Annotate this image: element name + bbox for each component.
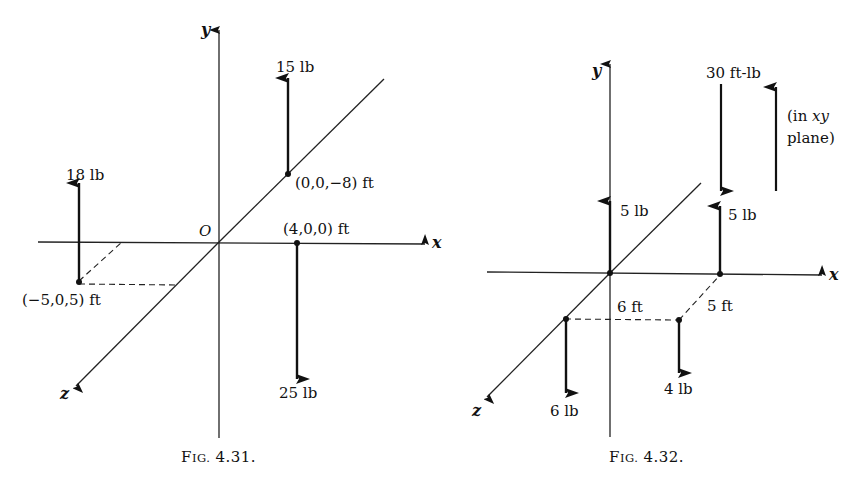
dashed-guide: [79, 242, 122, 281]
couple-note: (in xy: [787, 107, 830, 125]
point-marker: [285, 171, 291, 177]
y-axis-label: y: [591, 61, 603, 80]
point-label: (0,0,−8) ft: [295, 174, 374, 192]
y-axis-label: y: [200, 20, 212, 39]
force-label: 4 lb: [664, 380, 693, 398]
figures-canvas: y x z O 18 lb (−5,0,5) ft 15 lb (0,0,−8)…: [0, 0, 862, 479]
point-marker: [563, 316, 569, 322]
force-label: 15 lb: [276, 58, 314, 76]
x-axis-label: x: [431, 233, 442, 252]
z-axis-label: z: [59, 384, 70, 403]
origin-label: O: [199, 222, 211, 240]
x-axis: [487, 272, 822, 275]
figure-caption: FIG.4.31.: [181, 448, 256, 466]
point-marker: [717, 271, 723, 277]
figure-4-31: y x z O 18 lb (−5,0,5) ft 15 lb (0,0,−8)…: [22, 20, 442, 466]
z-axis-back: [219, 79, 384, 242]
force-label: 5 lb: [620, 202, 649, 220]
dimension-label: 5 ft: [707, 297, 733, 315]
point-marker: [76, 279, 82, 285]
dashed-guide: [565, 319, 679, 320]
x-axis: [38, 242, 425, 244]
point-marker: [294, 240, 300, 246]
point-marker: [676, 317, 682, 323]
point-label: (−5,0,5) ft: [22, 291, 101, 309]
couple-note: plane): [787, 129, 835, 147]
force-label: 6 lb: [550, 402, 579, 420]
dimension-label: 6 ft: [617, 298, 643, 316]
point-marker: [607, 270, 613, 276]
couple-label: 30 ft-lb: [706, 64, 761, 82]
z-axis: [487, 273, 610, 397]
force-label: 25 lb: [279, 384, 317, 402]
point-label: (4,0,0) ft: [283, 220, 349, 238]
z-axis-back: [610, 183, 701, 273]
force-label: 5 lb: [728, 206, 757, 224]
dashed-guide: [79, 284, 177, 285]
force-label: 18 lb: [66, 166, 104, 184]
z-axis-label: z: [471, 401, 482, 420]
figure-caption: FIG.4.32.: [609, 448, 684, 466]
figure-4-32: y x z 6 ft 5 ft 5 lb 5 lb 6 lb 4 lb 30 f…: [471, 61, 839, 466]
x-axis-label: x: [828, 265, 839, 284]
